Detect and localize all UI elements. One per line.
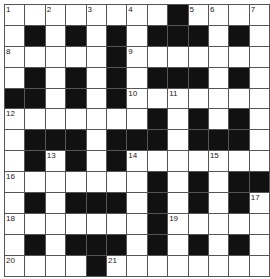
letter-cell[interactable] [127,193,147,214]
letter-cell[interactable]: 1 [5,5,25,26]
letter-cell[interactable] [189,151,209,172]
letter-cell[interactable] [250,235,270,256]
letter-cell[interactable] [127,214,147,235]
letter-cell[interactable]: 13 [46,151,66,172]
letter-cell[interactable] [25,47,45,68]
letter-cell[interactable] [46,26,66,47]
letter-cell[interactable] [25,214,45,235]
letter-cell[interactable] [229,89,249,110]
letter-cell[interactable] [148,151,168,172]
letter-cell[interactable]: 17 [250,193,270,214]
letter-cell[interactable] [250,256,270,277]
letter-cell[interactable] [189,214,209,235]
letter-cell[interactable] [168,235,188,256]
letter-cell[interactable] [209,172,229,193]
letter-cell[interactable] [168,130,188,151]
letter-cell[interactable] [127,235,147,256]
letter-cell[interactable] [168,151,188,172]
letter-cell[interactable] [66,47,86,68]
letter-cell[interactable] [148,5,168,26]
letter-cell[interactable] [66,172,86,193]
letter-cell[interactable] [250,151,270,172]
letter-cell[interactable] [107,214,127,235]
letter-cell[interactable] [127,172,147,193]
letter-cell[interactable] [46,47,66,68]
letter-cell[interactable]: 2 [46,5,66,26]
letter-cell[interactable] [209,47,229,68]
letter-cell[interactable] [87,151,107,172]
letter-cell[interactable] [87,172,107,193]
letter-cell[interactable]: 4 [127,5,147,26]
letter-cell[interactable] [148,256,168,277]
letter-cell[interactable] [209,68,229,89]
letter-cell[interactable] [168,256,188,277]
letter-cell[interactable] [229,214,249,235]
letter-cell[interactable] [5,68,25,89]
letter-cell[interactable] [66,256,86,277]
letter-cell[interactable] [5,130,25,151]
letter-cell[interactable] [5,193,25,214]
letter-cell[interactable]: 14 [127,151,147,172]
letter-cell[interactable] [229,151,249,172]
letter-cell[interactable] [87,109,107,130]
letter-cell[interactable]: 5 [189,5,209,26]
letter-cell[interactable] [189,89,209,110]
letter-cell[interactable] [168,109,188,130]
letter-cell[interactable] [87,130,107,151]
letter-cell[interactable] [250,26,270,47]
letter-cell[interactable] [209,89,229,110]
letter-cell[interactable] [107,109,127,130]
letter-cell[interactable] [189,256,209,277]
letter-cell[interactable] [127,68,147,89]
letter-cell[interactable]: 12 [5,109,25,130]
letter-cell[interactable] [25,256,45,277]
letter-cell[interactable] [46,89,66,110]
letter-cell[interactable] [250,130,270,151]
letter-cell[interactable] [46,109,66,130]
letter-cell[interactable] [87,89,107,110]
letter-cell[interactable] [107,172,127,193]
letter-cell[interactable] [209,26,229,47]
letter-cell[interactable] [66,5,86,26]
letter-cell[interactable] [46,256,66,277]
letter-cell[interactable] [46,214,66,235]
letter-cell[interactable]: 8 [5,47,25,68]
letter-cell[interactable] [229,5,249,26]
letter-cell[interactable]: 6 [209,5,229,26]
letter-cell[interactable] [250,109,270,130]
letter-cell[interactable] [5,151,25,172]
letter-cell[interactable] [46,172,66,193]
letter-cell[interactable] [209,235,229,256]
letter-cell[interactable] [148,47,168,68]
letter-cell[interactable] [189,47,209,68]
letter-cell[interactable] [168,172,188,193]
letter-cell[interactable] [250,47,270,68]
letter-cell[interactable] [250,89,270,110]
letter-cell[interactable]: 19 [168,214,188,235]
letter-cell[interactable] [229,47,249,68]
letter-cell[interactable] [66,109,86,130]
letter-cell[interactable]: 21 [107,256,127,277]
letter-cell[interactable] [250,68,270,89]
letter-cell[interactable] [5,26,25,47]
letter-cell[interactable] [87,26,107,47]
letter-cell[interactable] [46,193,66,214]
letter-cell[interactable]: 18 [5,214,25,235]
letter-cell[interactable]: 16 [5,172,25,193]
letter-cell[interactable] [127,26,147,47]
letter-cell[interactable] [66,214,86,235]
letter-cell[interactable] [209,214,229,235]
letter-cell[interactable] [87,68,107,89]
letter-cell[interactable] [168,193,188,214]
letter-cell[interactable] [46,68,66,89]
letter-cell[interactable] [168,47,188,68]
letter-cell[interactable] [5,235,25,256]
letter-cell[interactable]: 3 [87,5,107,26]
letter-cell[interactable]: 20 [5,256,25,277]
letter-cell[interactable]: 10 [127,89,147,110]
letter-cell[interactable] [25,172,45,193]
letter-cell[interactable] [250,214,270,235]
letter-cell[interactable] [127,109,147,130]
letter-cell[interactable] [209,193,229,214]
letter-cell[interactable] [209,256,229,277]
